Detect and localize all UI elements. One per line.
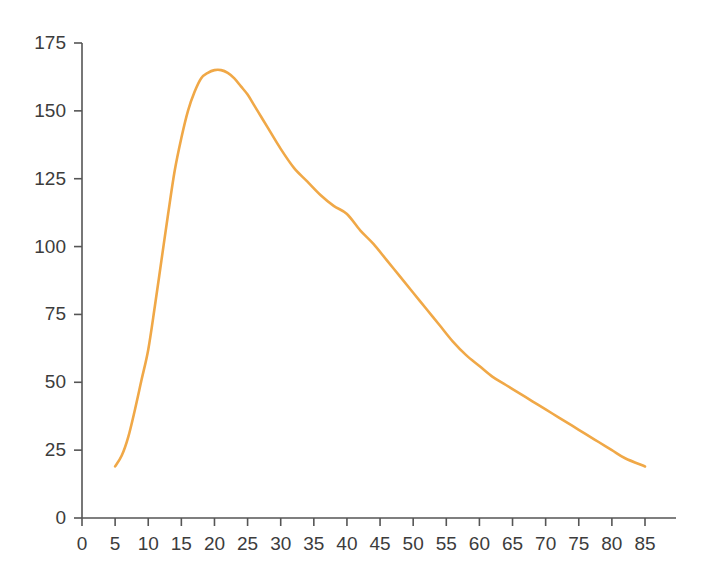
y-axis-tick-label: 125	[0, 168, 66, 190]
x-axis-ticks	[82, 518, 645, 526]
x-axis-tick-label: 35	[303, 533, 324, 555]
y-axis-tick-label: 25	[0, 439, 66, 461]
chart-plot-area	[0, 0, 704, 570]
x-axis-tick-label: 75	[568, 533, 589, 555]
y-axis-tick-label: 150	[0, 100, 66, 122]
x-axis-tick-label: 80	[601, 533, 622, 555]
y-axis-tick-label: 75	[0, 303, 66, 325]
x-axis-tick-label: 30	[270, 533, 291, 555]
x-axis-tick-label: 25	[237, 533, 258, 555]
axis-group	[74, 43, 676, 526]
x-axis-tick-label: 50	[403, 533, 424, 555]
y-axis-ticks	[74, 43, 82, 518]
x-axis-tick-label: 55	[436, 533, 457, 555]
y-axis-tick-label: 175	[0, 32, 66, 54]
x-axis-tick-label: 40	[336, 533, 357, 555]
x-axis-tick-label: 0	[77, 533, 88, 555]
x-axis-tick-label: 70	[535, 533, 556, 555]
x-axis-tick-label: 15	[171, 533, 192, 555]
chart-container: 0255075100125150175 05101520253035404550…	[0, 0, 704, 570]
x-axis-tick-label: 85	[634, 533, 655, 555]
x-axis-tick-label: 20	[204, 533, 225, 555]
x-axis-tick-label: 60	[469, 533, 490, 555]
y-axis-tick-label: 0	[0, 507, 66, 529]
x-axis-tick-label: 45	[369, 533, 390, 555]
y-axis-tick-label: 100	[0, 236, 66, 258]
y-axis-tick-label: 50	[0, 371, 66, 393]
x-axis-tick-label: 5	[110, 533, 121, 555]
data-series-line	[115, 70, 645, 467]
x-axis-tick-label: 10	[138, 533, 159, 555]
x-axis-tick-label: 65	[502, 533, 523, 555]
